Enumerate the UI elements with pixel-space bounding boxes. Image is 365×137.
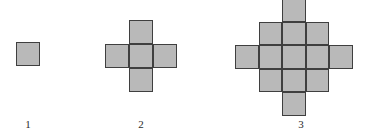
square-cell <box>282 45 306 69</box>
diagram-canvas: 123 <box>0 0 365 137</box>
square-cell <box>329 45 353 69</box>
square-cell <box>259 45 283 69</box>
square-cell <box>282 22 306 46</box>
square-cell <box>282 92 306 116</box>
square-cell <box>259 69 283 93</box>
square-cell <box>282 0 306 22</box>
square-cell <box>306 69 330 93</box>
square-cell <box>282 69 306 93</box>
square-cell <box>306 22 330 46</box>
square-cell <box>306 45 330 69</box>
square-cell <box>259 22 283 46</box>
square-cell <box>235 45 259 69</box>
figure-label-3: 3 <box>277 118 325 130</box>
figure-3 <box>0 0 365 137</box>
